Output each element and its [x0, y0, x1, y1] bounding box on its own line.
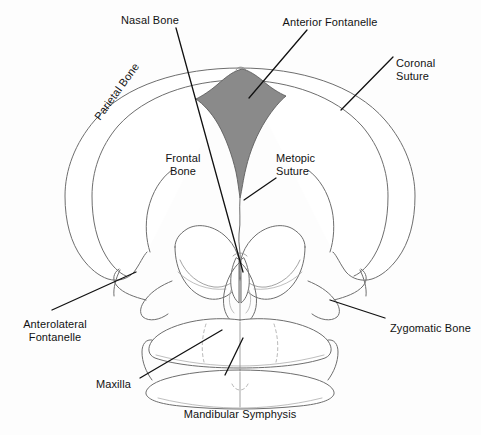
label-metopic-suture-line1: Metopic — [276, 152, 346, 165]
label-anterolateral-fontanelle-line2: Fontanelle — [6, 331, 104, 344]
figure-canvas: .bone { fill: none; stroke: #6e6e6e; str… — [0, 0, 481, 435]
label-mandibular-symphysis: Mandibular Symphysis — [168, 408, 312, 421]
label-anterolateral-fontanelle-line1: Anterolateral — [6, 318, 104, 331]
label-maxilla: Maxilla — [96, 378, 156, 391]
label-coronal-suture-line2: Suture — [396, 70, 476, 83]
label-metopic-suture-line2: Suture — [276, 165, 346, 178]
label-anterior-fontanelle: Anterior Fontanelle — [268, 16, 392, 29]
label-frontal-bone-line2: Bone — [152, 165, 214, 178]
label-coronal-suture-line1: Coronal — [396, 57, 476, 70]
label-zygomatic-bone: Zygomatic Bone — [390, 322, 481, 335]
label-nasal-bone: Nasal Bone — [108, 14, 192, 27]
label-frontal-bone-line1: Frontal — [152, 152, 214, 165]
